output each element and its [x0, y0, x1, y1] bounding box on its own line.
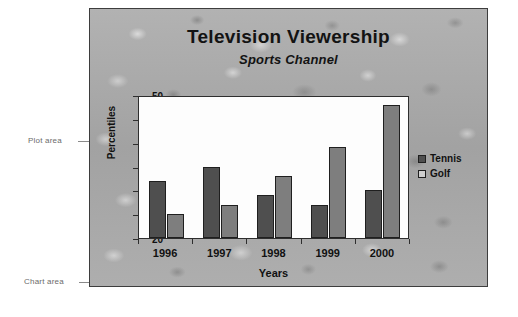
x-tick-label-1997: 1997 [189, 247, 249, 259]
bar-golf-1997[interactable] [221, 205, 238, 238]
bar-golf-2000[interactable] [383, 105, 400, 238]
bar-tennis-2000[interactable] [365, 190, 382, 238]
legend-item-golf[interactable]: Golf [418, 168, 461, 179]
x-tick-label-1998: 1998 [244, 247, 304, 259]
x-tick-mark-4 [355, 239, 356, 244]
x-tick-mark-5 [409, 239, 410, 244]
x-tick-mark-1 [192, 239, 193, 244]
x-tick-mark-2 [246, 239, 247, 244]
legend-label-tennis: Tennis [430, 153, 461, 164]
x-tick-label-1999: 1999 [298, 247, 358, 259]
x-tick-mark-3 [301, 239, 302, 244]
legend-label-golf: Golf [430, 168, 450, 179]
bars-container [139, 97, 408, 238]
y-axis-title: Percentiles [106, 98, 117, 168]
legend-swatch-golf-icon [418, 170, 426, 178]
x-tick-label-1996: 1996 [135, 247, 195, 259]
x-tick-label-2000: 2000 [352, 247, 412, 259]
chart-area-callout-label: Chart area [24, 277, 64, 286]
legend[interactable]: TennisGolf [418, 153, 461, 183]
chart-title: Television Viewership [90, 26, 487, 48]
chart-subtitle: Sports Channel [90, 52, 487, 67]
plot-area-callout-label: Plot area [28, 136, 62, 145]
x-tick-mark-0 [138, 239, 139, 244]
legend-swatch-tennis-icon [418, 155, 426, 163]
chart-area[interactable]: Television Viewership Sports Channel Per… [89, 8, 488, 287]
plot-area[interactable] [138, 96, 409, 239]
bar-golf-1998[interactable] [275, 176, 292, 238]
bar-tennis-1999[interactable] [311, 205, 328, 238]
bar-tennis-1998[interactable] [257, 195, 274, 238]
bar-tennis-1996[interactable] [149, 181, 166, 238]
bar-golf-1996[interactable] [167, 214, 184, 238]
x-axis-title: Years [138, 267, 409, 279]
bar-tennis-1997[interactable] [203, 167, 220, 239]
bar-golf-1999[interactable] [329, 147, 346, 238]
legend-item-tennis[interactable]: Tennis [418, 153, 461, 164]
